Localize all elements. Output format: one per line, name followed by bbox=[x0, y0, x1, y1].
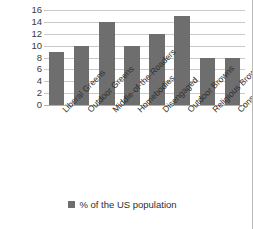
legend-swatch-icon bbox=[68, 201, 75, 208]
y-axis-tick-label: 14 bbox=[31, 17, 42, 27]
y-axis-tick-label: 6 bbox=[37, 65, 42, 75]
x-axis-label: Outdoor Browns bbox=[186, 108, 192, 114]
y-axis-tick-label: 10 bbox=[31, 41, 42, 51]
x-axis-labels: Liberal GreensOutdoor GreensMiddle-of-th… bbox=[44, 106, 245, 194]
x-axis-label: Conservative Browns bbox=[236, 108, 242, 114]
y-axis-tick-label: 16 bbox=[31, 5, 42, 15]
bar-slot bbox=[44, 10, 69, 105]
x-axis-label: Outdoor Greens bbox=[86, 108, 92, 114]
y-axis-tick-label: 12 bbox=[31, 29, 42, 39]
y-axis-tick-label: 0 bbox=[37, 100, 42, 110]
x-axis-label: Middle-of-the-Roaders bbox=[111, 108, 117, 114]
x-axis-label: Liberal Greens bbox=[61, 108, 67, 114]
legend-label: % of the US population bbox=[79, 200, 176, 210]
chart-legend: % of the US population bbox=[0, 200, 245, 210]
y-axis-tick-label: 2 bbox=[37, 88, 42, 98]
y-axis: 1614121086420 bbox=[22, 10, 42, 105]
y-axis-tick-label: 4 bbox=[37, 77, 42, 87]
x-axis-label: Religious Browns bbox=[211, 108, 217, 114]
bar bbox=[49, 52, 65, 105]
bar-chart: 1614121086420 Liberal GreensOutdoor Gree… bbox=[0, 0, 253, 229]
y-axis-tick-label: 8 bbox=[37, 53, 42, 63]
x-axis-label: Homebodies bbox=[136, 108, 142, 114]
x-axis-label: Disengaged bbox=[161, 108, 167, 114]
